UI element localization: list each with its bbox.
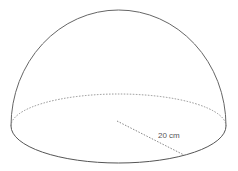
back-base-edge-dashed xyxy=(11,94,226,126)
dome-outline xyxy=(11,10,226,126)
hemisphere-diagram: 20 cm xyxy=(0,0,238,171)
front-base-edge xyxy=(11,126,226,163)
radius-label: 20 cm xyxy=(158,131,180,140)
